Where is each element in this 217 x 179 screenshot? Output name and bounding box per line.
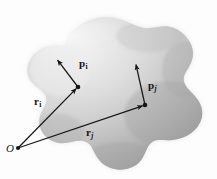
- rigid-body-shape: [0, 0, 217, 179]
- particle-j-point: [143, 103, 148, 108]
- origin-point: [16, 146, 20, 150]
- label-origin: O: [6, 143, 14, 154]
- rigid-body-vector-diagram: pi pj ri rj O: [0, 0, 217, 179]
- particle-i-point: [76, 85, 81, 90]
- label-r-i: ri: [34, 96, 41, 109]
- diagram-canvas: [0, 0, 217, 179]
- label-p-i: pi: [79, 58, 88, 71]
- body-shading: [0, 0, 217, 179]
- label-r-j: rj: [86, 127, 93, 140]
- label-p-j: pj: [148, 80, 157, 93]
